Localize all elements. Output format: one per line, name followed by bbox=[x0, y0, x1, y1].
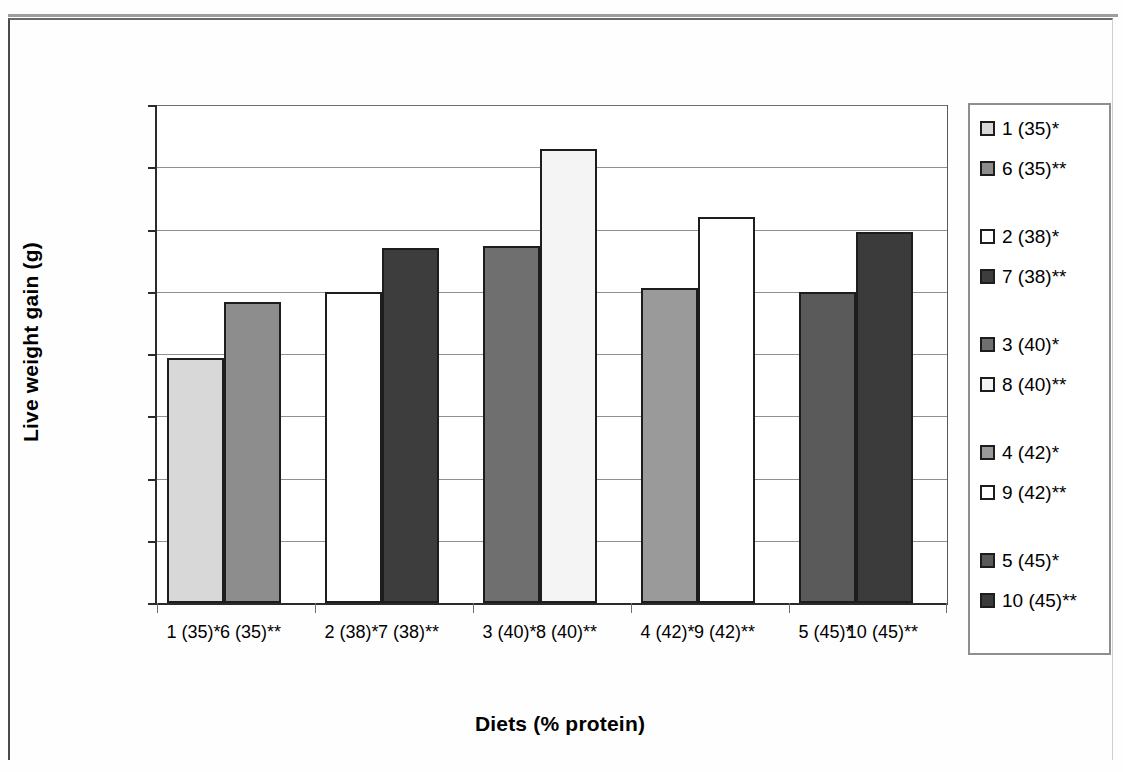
y-axis-tick bbox=[148, 292, 157, 294]
bar-series bbox=[157, 105, 947, 603]
legend-item[interactable]: 2 (38)* bbox=[980, 227, 1059, 246]
x-axis-tick-label: 10 (45)** bbox=[822, 622, 942, 643]
y-axis-title: Live weight gain (g) bbox=[19, 177, 43, 507]
legend-swatch-icon bbox=[980, 337, 995, 352]
legend-item-label: 8 (40)** bbox=[1002, 375, 1066, 394]
legend-item-label: 7 (38)** bbox=[1002, 267, 1066, 286]
bar bbox=[540, 149, 597, 603]
bar bbox=[325, 292, 382, 603]
scan-frame-top-edge bbox=[8, 14, 1118, 17]
x-axis-tick bbox=[157, 603, 158, 613]
legend-swatch-icon bbox=[980, 445, 995, 460]
legend-item-label: 9 (42)** bbox=[1002, 483, 1066, 502]
legend-swatch-icon bbox=[980, 269, 995, 284]
legend-swatch-icon bbox=[980, 485, 995, 500]
legend-item-label: 1 (35)* bbox=[1002, 119, 1059, 138]
x-axis-tick bbox=[789, 603, 790, 613]
y-axis-tick bbox=[148, 105, 157, 107]
legend-item-label: 4 (42)* bbox=[1002, 443, 1059, 462]
y-axis-tick bbox=[148, 167, 157, 169]
legend-box: 1 (35)*6 (35)**2 (38)*7 (38)**3 (40)*8 (… bbox=[968, 103, 1111, 655]
legend-item[interactable]: 8 (40)** bbox=[980, 375, 1066, 394]
legend-item-label: 6 (35)** bbox=[1002, 159, 1066, 178]
legend-swatch-icon bbox=[980, 593, 995, 608]
legend-swatch-icon bbox=[980, 553, 995, 568]
plot-area bbox=[155, 105, 948, 605]
legend-item-label: 5 (45)* bbox=[1002, 551, 1059, 570]
y-axis-tick bbox=[148, 230, 157, 232]
legend-item[interactable]: 7 (38)** bbox=[980, 267, 1066, 286]
x-axis-tick bbox=[315, 603, 316, 613]
legend-item[interactable]: 5 (45)* bbox=[980, 551, 1059, 570]
x-axis-tick bbox=[473, 603, 474, 613]
legend-item[interactable]: 6 (35)** bbox=[980, 159, 1066, 178]
x-axis-tick bbox=[946, 603, 947, 613]
chart-page: Live weight gain (g) Diets (% protein) 0… bbox=[0, 0, 1123, 772]
legend-item[interactable]: 10 (45)** bbox=[980, 591, 1077, 610]
x-axis-title: Diets (% protein) bbox=[150, 712, 970, 736]
y-axis-tick bbox=[148, 603, 157, 605]
legend-item-label: 10 (45)** bbox=[1002, 591, 1077, 610]
legend-swatch-icon bbox=[980, 121, 995, 136]
y-axis-tick bbox=[148, 479, 157, 481]
y-axis-tick bbox=[148, 416, 157, 418]
y-axis-tick bbox=[148, 541, 157, 543]
bar bbox=[641, 288, 698, 603]
legend-swatch-icon bbox=[980, 161, 995, 176]
bar bbox=[167, 358, 224, 603]
legend-swatch-icon bbox=[980, 229, 995, 244]
bar bbox=[224, 302, 281, 603]
legend-item[interactable]: 4 (42)* bbox=[980, 443, 1059, 462]
bar bbox=[483, 246, 540, 603]
bar bbox=[382, 248, 439, 603]
legend-swatch-icon bbox=[980, 377, 995, 392]
legend-item[interactable]: 1 (35)* bbox=[980, 119, 1059, 138]
bar bbox=[799, 292, 856, 603]
x-axis-tick bbox=[631, 603, 632, 613]
legend-item-label: 3 (40)* bbox=[1002, 335, 1059, 354]
bar bbox=[856, 232, 913, 603]
bar bbox=[698, 217, 755, 603]
legend-item[interactable]: 9 (42)** bbox=[980, 483, 1066, 502]
legend-item-label: 2 (38)* bbox=[1002, 227, 1059, 246]
legend-item[interactable]: 3 (40)* bbox=[980, 335, 1059, 354]
y-axis-tick bbox=[148, 354, 157, 356]
